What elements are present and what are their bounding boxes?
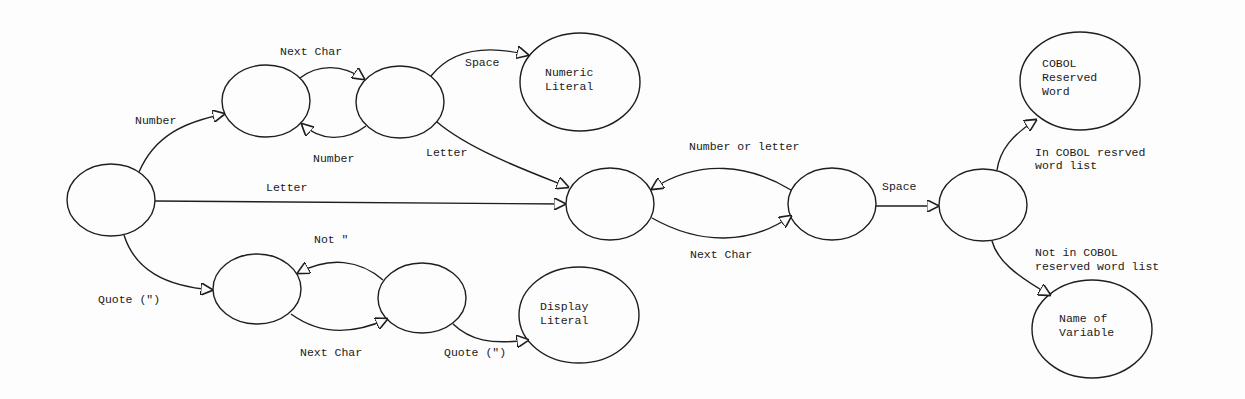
arrow-num-b-to-a [302,124,366,137]
state-word-a [566,168,654,240]
state-quote-a [213,254,301,324]
label-num-b-to-word: Letter [426,146,467,159]
label-num-b-to-literal: Space [465,56,500,69]
arrow-start-to-quote [124,235,212,290]
arrow-word-b-to-a [652,168,791,190]
label-quote-b-to-display: Quote (") [444,346,506,359]
arrow-quote-b-to-a [298,262,383,280]
display-literal-label: Display Literal [540,300,595,327]
cobol-reserved-label: COBOL Reserved Word [1042,57,1104,98]
state-num-b [356,66,444,138]
arrow-quote-a-to-b [291,314,387,330]
state-start [67,164,155,236]
arrow-num-a-to-b [300,68,364,79]
state-num-a [222,65,310,137]
numeric-literal-label: Numeric Literal [545,66,600,93]
label-quote-b-to-a: Not " [314,233,349,246]
state-word-b [788,168,876,240]
label-start-to-num: Number [135,114,176,127]
name-of-variable-label: Name of Variable [1059,312,1114,339]
label-word-b-to-a: Number or letter [689,140,799,153]
label-quote-a-to-b: Next Char [300,346,362,359]
state-diagram: Numeric Literal COBOL Reserved Word Name… [0,0,1245,399]
label-end-to-variable: Not in COBOL reserved word list [1035,246,1159,273]
label-word-b-to-end: Space [882,180,917,193]
arrow-start-to-word [155,201,565,204]
arrow-end-to-reserved [997,120,1036,170]
label-start-to-word: Letter [266,181,307,194]
arrow-quote-b-to-display [453,324,528,342]
arrow-word-a-to-b [652,216,791,238]
label-word-a-to-b: Next Char [690,248,752,261]
label-num-a-to-b: Next Char [280,45,342,58]
label-end-to-reserved: In COBOL resrved word list [1035,146,1152,172]
state-word-end [939,169,1027,241]
label-start-to-quote: Quote (") [98,293,160,306]
label-num-b-to-a: Number [313,152,354,165]
state-quote-b [378,263,466,333]
